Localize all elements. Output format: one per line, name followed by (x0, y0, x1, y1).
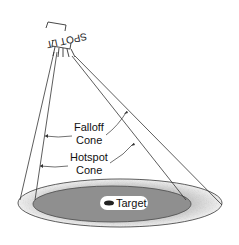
hotspot-cone-lines (35, 52, 186, 200)
hotspot-label: Hotspot Cone (70, 151, 108, 176)
hotspot-leader-arrow-right (110, 143, 134, 163)
target-marker-icon (104, 201, 114, 206)
svg-text:Cone: Cone (76, 134, 102, 146)
target: Target (100, 196, 148, 210)
svg-text:Cone: Cone (76, 164, 102, 176)
falloff-leader-arrow-right (106, 111, 127, 135)
spotlight-diagram: SPOT LT Falloff Cone Hotspot Cone Target (0, 0, 239, 245)
svg-text:Hotspot: Hotspot (70, 151, 108, 163)
falloff-leader-arrow-left (45, 136, 72, 137)
target-label: Target (116, 197, 147, 209)
svg-text:Falloff: Falloff (74, 121, 105, 133)
hotspot-leader-arrow-left (40, 166, 68, 167)
falloff-label: Falloff Cone (74, 121, 105, 146)
spotlight-label: SPOT LT (46, 31, 88, 50)
